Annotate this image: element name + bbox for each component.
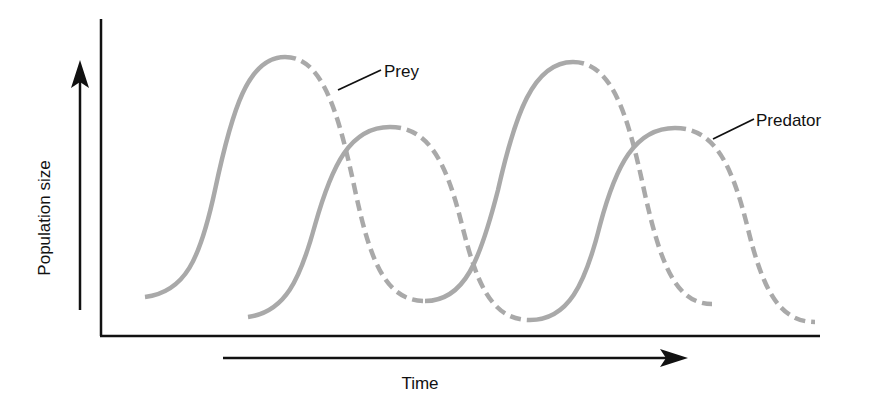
- prey-leader-line: [338, 70, 381, 90]
- prey-callout: Prey: [338, 62, 419, 90]
- predator-fall-2: [675, 128, 815, 322]
- y-axis-arrow: [71, 60, 89, 310]
- x-axis-label: Time: [401, 374, 438, 393]
- prey-fall-1: [285, 57, 425, 301]
- prey-fall-2: [573, 62, 712, 304]
- predator-rise-1: [248, 127, 390, 317]
- predator-leader-line: [713, 119, 754, 139]
- x-axis-arrow: [223, 349, 688, 367]
- predator-prey-diagram: Time Population size Prey Predator: [0, 0, 885, 408]
- predator-fall-1: [390, 127, 530, 320]
- prey-rise-1: [145, 57, 285, 297]
- y-axis-label: Population size: [35, 160, 54, 275]
- prey-label: Prey: [384, 62, 419, 81]
- prey-series: [145, 57, 712, 304]
- predator-callout: Predator: [713, 111, 822, 139]
- predator-series: [248, 127, 815, 322]
- predator-label: Predator: [756, 111, 822, 130]
